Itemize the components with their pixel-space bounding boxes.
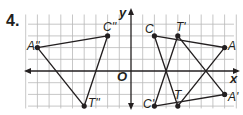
coordinate-plane: y x O A'' C'' T'' C T' A C' T A' [0,0,243,115]
origin-label: O [117,69,127,84]
vertex-point [222,92,227,97]
vertex-label-A-prime: A' [227,90,239,104]
vertex-label-T-prime: T' [176,20,186,34]
x-axis-left-arrow-icon [24,68,31,74]
x-axis-label: x [229,71,238,86]
vertex-point [105,33,110,38]
vertex-label-A-double-prime: A'' [26,39,40,53]
y-axis-label: y [118,5,127,20]
vertex-label-C: C [145,22,154,36]
vertex-label-C-double-prime: C'' [103,20,117,34]
vertex-point [175,104,180,109]
vertex-label-C-prime: C' [143,97,155,111]
vertex-label-A: A [227,39,236,53]
y-axis-up-arrow-icon [128,8,134,15]
vertex-point [175,33,180,38]
vertex-label-T-double-prime: T'' [88,96,101,110]
vertex-point [82,104,87,109]
vertex-label-T: T [174,88,183,102]
vertex-point [222,45,227,50]
